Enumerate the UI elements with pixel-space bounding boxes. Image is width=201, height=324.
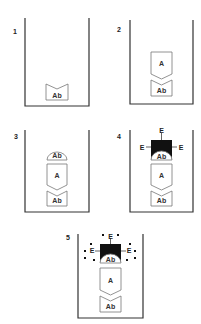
- enzyme-label-right: E: [179, 144, 184, 151]
- panel-5: 5 E E E Ab A: [66, 233, 143, 318]
- antigen: A: [151, 164, 172, 190]
- svg-text:Ab: Ab: [52, 152, 61, 159]
- enzyme-label-left: E: [90, 247, 95, 254]
- svg-text:A: A: [54, 172, 59, 179]
- svg-text:Ab: Ab: [157, 197, 166, 204]
- panel-label-5: 5: [66, 234, 70, 241]
- capture-antibody: Ab: [151, 80, 172, 96]
- antigen: A: [100, 268, 121, 295]
- capture-antibody: Ab: [100, 296, 121, 312]
- enzyme-label-top: E: [159, 127, 164, 134]
- panel-label-2: 2: [117, 26, 121, 33]
- panel-1: 1 Ab: [13, 18, 89, 106]
- svg-text:Ab: Ab: [106, 256, 115, 263]
- antigen: A: [151, 52, 172, 79]
- capture-antibody: Ab: [151, 191, 172, 206]
- svg-text:Ab: Ab: [106, 303, 115, 310]
- panel-2: 2 A Ab: [117, 20, 193, 104]
- svg-text:A: A: [159, 60, 164, 67]
- antigen: A: [47, 164, 67, 190]
- svg-text:Ab: Ab: [52, 197, 61, 204]
- enzyme-label-left: E: [140, 144, 145, 151]
- elisa-diagram: 1 Ab 2 A Ab 3 Ab A Ab: [0, 0, 201, 324]
- enzyme-label-top: E: [108, 233, 113, 240]
- panel-label-4: 4: [117, 133, 121, 140]
- svg-text:A: A: [159, 172, 164, 179]
- panel-label-3: 3: [14, 133, 18, 140]
- svg-text:Ab: Ab: [157, 87, 166, 94]
- detection-antibody: Ab: [47, 152, 67, 160]
- svg-text:Ab: Ab: [157, 153, 166, 160]
- svg-text:Ab: Ab: [52, 92, 61, 99]
- enzyme-label-right: E: [127, 247, 132, 254]
- panel-3: 3 Ab A Ab: [14, 130, 89, 212]
- capture-antibody: Ab: [47, 191, 67, 206]
- enzyme-conjugate: E E E Ab: [90, 233, 132, 263]
- capture-antibody: Ab: [46, 84, 68, 100]
- enzyme-conjugate: E E E Ab: [140, 127, 184, 160]
- svg-text:A: A: [108, 277, 113, 284]
- panel-4: 4 E E E Ab A Ab: [117, 127, 193, 212]
- panel-label-1: 1: [13, 28, 17, 35]
